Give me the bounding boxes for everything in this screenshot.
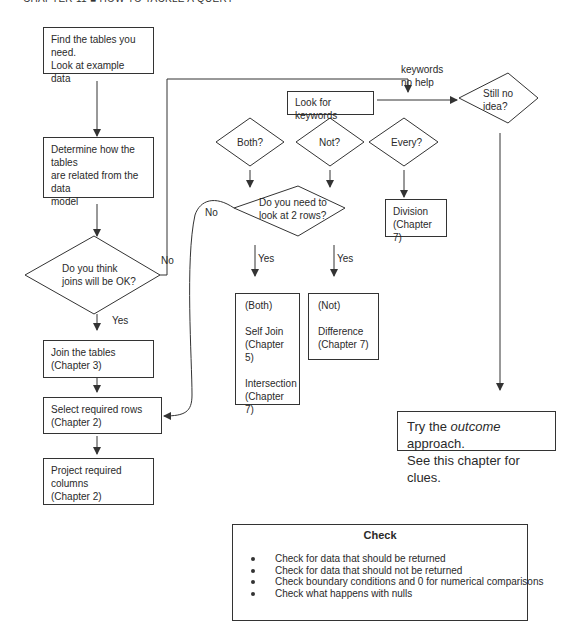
two-rows-no-label: No [205,206,218,219]
check-item: Check for data that should not be return… [233,565,527,577]
join-line1: Join the tables [51,346,146,359]
outcome-line1: Try the outcome approach. [407,418,546,452]
intersection-chapter: (Chapter 7) [245,390,290,416]
check-box: Check Check for data that should be retu… [232,524,528,621]
two-rows-question: Do you need to look at 2 rows? [259,196,327,222]
two-rows-line1: Do you need to [259,196,327,209]
project-line2: (Chapter 2) [51,490,146,503]
check-item: Check boundary conditions and 0 for nume… [233,576,527,588]
join-tables-box: Join the tables (Chapter 3) [43,340,154,378]
keywords-no-help-label: keywords no help [401,63,443,89]
not-question: Not? [319,136,340,149]
two-rows-line2: look at 2 rows? [259,209,327,222]
bullet-icon [251,557,255,561]
project-columns-box: Project required columns (Chapter 2) [43,458,154,505]
both-question: Both? [237,136,263,149]
joins-ok-line1: Do you think [62,262,136,275]
find-tables-line2: Look at example data [51,59,146,85]
outcome-pre: Try the [407,419,451,434]
select-rows-box: Select required rows (Chapter 2) [43,397,162,434]
check-item-text: Check what happens with nulls [275,588,412,599]
division-line2: (Chapter 7) [393,218,439,244]
keywords-label: Look for keywords [295,97,337,121]
self-join-chapter: (Chapter 5) [245,338,290,364]
still-no-idea-line2: idea? [483,100,513,113]
check-item-text: Check boundary conditions and 0 for nume… [275,576,543,587]
outcome-line2: See this chapter for clues. [407,452,546,486]
check-item: Check for data that should be returned [233,553,527,565]
outcome-approach-box: Try the outcome approach. See this chapt… [397,411,556,451]
check-item-text: Check for data that should not be return… [275,565,462,576]
not-yes-label: Yes [337,252,353,265]
not-result-box: (Not) Difference (Chapter 7) [308,293,379,360]
determine-line1: Determine how the tables [51,143,146,169]
select-line2: (Chapter 2) [51,416,154,429]
both-yes-label: Yes [258,252,274,265]
bullet-icon [251,592,255,596]
joins-yes-label: Yes [112,314,128,327]
determine-line2: are related from the data [51,169,146,195]
project-line1: Project required columns [51,464,146,490]
select-line1: Select required rows [51,403,154,416]
find-tables-box: Find the tables you need. Look at exampl… [43,27,154,74]
bullet-icon [251,580,255,584]
find-tables-line1: Find the tables you need. [51,33,146,59]
intersection-label: Intersection [245,377,290,390]
still-no-idea-line1: Still no [483,87,513,100]
not-heading: (Not) [318,299,369,312]
both-result-box: (Both) Self Join (Chapter 5) Intersectio… [235,293,300,405]
no-help-line1: keywords [401,63,443,76]
no-help-line2: no help [401,76,443,89]
division-line1: Division [393,205,439,218]
join-line2: (Chapter 3) [51,359,146,372]
outcome-emphasis: outcome [451,419,501,434]
self-join-label: Self Join [245,325,290,338]
check-title: Check [233,529,527,541]
difference-chapter: (Chapter 7) [318,338,369,351]
still-no-idea-question: Still no idea? [483,87,513,113]
difference-label: Difference [318,325,369,338]
determine-relations-box: Determine how the tables are related fro… [43,137,154,198]
joins-no-label: No [161,254,174,267]
check-list: Check for data that should be returned C… [233,553,527,599]
check-item-text: Check for data that should be returned [275,553,446,564]
division-box: Division (Chapter 7) [385,199,447,237]
outcome-post: approach. [407,436,465,451]
joins-ok-question: Do you think joins will be OK? [62,262,136,288]
determine-line3: model [51,195,146,208]
joins-ok-line2: joins will be OK? [62,275,136,288]
look-for-keywords-box: Look for keywords [287,91,374,115]
every-question: Every? [391,136,422,149]
check-item: Check what happens with nulls [233,588,527,600]
both-heading: (Both) [245,299,290,312]
bullet-icon [251,569,255,573]
